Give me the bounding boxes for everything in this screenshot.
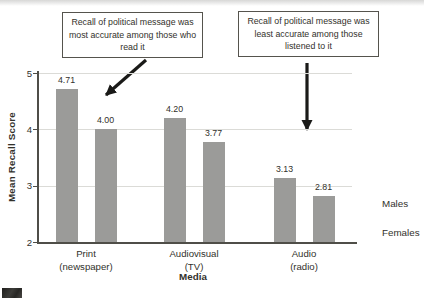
y-axis-title: Mean Recall Score: [6, 112, 17, 202]
bar-value-females-audio: 2.81: [302, 182, 346, 192]
males-swatch-icon: [361, 197, 374, 210]
bar-value-males-audio: 3.13: [263, 164, 307, 174]
bar-males-print: [56, 89, 78, 242]
y-tick-mark-2: [33, 242, 38, 243]
arrow-most-accurate-icon: [106, 60, 146, 95]
y-tick-label-4: 4: [16, 124, 32, 135]
scan-shadow-top: [0, 0, 424, 6]
bar-value-males-print: 4.71: [45, 75, 89, 85]
bar-females-audio: [313, 196, 335, 242]
legend-entry-males: Males: [361, 197, 420, 210]
annotation-text-most-accurate: Recall of political message was most acc…: [68, 16, 197, 54]
x-category-label-audio: Audio(radio): [259, 248, 349, 273]
x-category-line2: (newspaper): [41, 261, 131, 274]
annotation-text-least-accurate: Recall of political message was least ac…: [244, 15, 373, 53]
legend-label-females: Females: [382, 227, 420, 238]
x-category-line2: (radio): [259, 261, 349, 274]
x-category-label-audiovisual: Audiovisual(TV): [149, 248, 239, 273]
bar-males-audiovisual: [164, 118, 186, 242]
y-axis-line: [37, 71, 39, 242]
bar-females-print: [95, 129, 117, 242]
bar-value-males-audiovisual: 4.20: [153, 104, 197, 114]
y-tick-mark-3: [33, 186, 38, 187]
legend: Males Females: [361, 197, 420, 239]
x-category-line1: Audiovisual: [149, 248, 239, 261]
x-axis-line: [37, 242, 357, 244]
gridline-5: [37, 73, 352, 74]
y-tick-label-5: 5: [16, 68, 32, 79]
females-swatch-icon: [361, 226, 374, 239]
x-category-line1: Print: [41, 248, 131, 261]
bar-value-females-print: 4.00: [84, 115, 128, 125]
bar-males-audio: [274, 178, 296, 242]
bar-females-audiovisual: [203, 142, 225, 242]
legend-label-males: Males: [382, 198, 408, 209]
x-axis-title: Media: [153, 271, 233, 282]
x-category-line1: Audio: [259, 248, 349, 261]
annotation-box-least-accurate: Recall of political message was least ac…: [238, 11, 379, 57]
page-image-fragment: [2, 288, 22, 298]
figure-bar-chart-recall: Recall of political message was most acc…: [0, 0, 424, 298]
x-category-label-print: Print(newspaper): [41, 248, 131, 273]
y-tick-label-3: 3: [16, 180, 32, 191]
bar-value-females-audiovisual: 3.77: [192, 128, 236, 138]
y-tick-label-2: 2: [16, 237, 32, 248]
legend-entry-females: Females: [361, 226, 420, 239]
y-tick-mark-5: [33, 73, 38, 74]
y-tick-mark-4: [33, 129, 38, 130]
annotation-box-most-accurate: Recall of political message was most acc…: [62, 12, 203, 58]
